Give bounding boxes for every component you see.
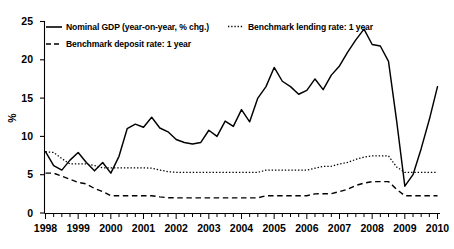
y-tick-label: 5 <box>5 168 33 180</box>
y-tick-label: 25 <box>5 15 33 27</box>
y-axis-title: % <box>6 108 18 128</box>
y-tick-label: 0 <box>5 207 33 219</box>
y-tick-label: 15 <box>5 92 33 104</box>
series-line-benchmark-deposit-rate <box>46 173 438 198</box>
legend-label-nominal-gdp: Nominal GDP (year-on-year, % chg.) <box>66 22 209 32</box>
legend-label-deposit-rate: Benchmark deposit rate: 1 year <box>66 39 191 49</box>
series-line-benchmark-lending-rate <box>46 152 438 173</box>
legend-label-lending-rate: Benchmark lending rate: 1 year <box>248 22 373 32</box>
x-axis-major-ticks <box>46 214 438 220</box>
series-line-nominal-gdp <box>46 29 438 186</box>
x-tick-label: 2010 <box>416 222 454 234</box>
y-tick-label: 20 <box>5 53 33 65</box>
y-tick-label: 10 <box>5 130 33 142</box>
